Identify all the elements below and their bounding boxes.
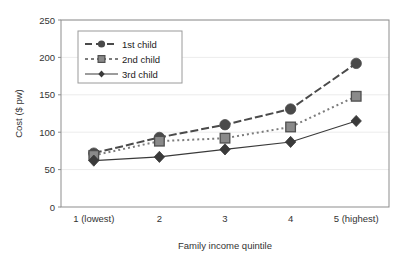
y-tick-label: 0 xyxy=(50,202,55,213)
data-point-circle xyxy=(351,58,361,68)
data-point-square xyxy=(286,122,296,132)
data-point-square xyxy=(351,91,361,101)
data-point-diamond xyxy=(154,151,164,162)
data-point-diamond xyxy=(285,136,295,147)
y-axis-title: Cost ($ pw) xyxy=(13,89,24,138)
data-point-square xyxy=(220,133,230,143)
legend: 1st child2nd child3rd child xyxy=(78,31,182,83)
legend-marker-circle xyxy=(98,40,105,47)
data-point-square xyxy=(155,136,165,146)
x-tick-label: 2 xyxy=(157,213,162,224)
x-axis-title: Family income quintile xyxy=(178,240,272,251)
y-axis: 050100150200250 xyxy=(39,15,61,213)
x-tick-label: 1 (lowest) xyxy=(73,213,114,224)
y-tick-label: 50 xyxy=(44,164,55,175)
y-tick-label: 200 xyxy=(39,52,55,63)
legend-label: 1st child xyxy=(122,39,157,50)
y-tick-label: 250 xyxy=(39,15,55,26)
data-point-diamond xyxy=(220,144,230,155)
x-tick-label: 5 (highest) xyxy=(334,213,379,224)
x-axis: 1 (lowest)2345 (highest) xyxy=(73,213,378,224)
y-tick-label: 100 xyxy=(39,127,55,138)
data-point-diamond xyxy=(351,115,361,126)
chart-container: 050100150200250Cost ($ pw)1 (lowest)2345… xyxy=(0,0,412,271)
data-point-circle xyxy=(220,120,230,130)
legend-marker-square xyxy=(98,56,105,63)
data-point-circle xyxy=(285,104,295,114)
legend-label: 3rd child xyxy=(122,69,158,80)
x-tick-label: 3 xyxy=(222,213,227,224)
y-tick-label: 150 xyxy=(39,89,55,100)
line-chart: 050100150200250Cost ($ pw)1 (lowest)2345… xyxy=(0,0,412,271)
x-tick-label: 4 xyxy=(288,213,293,224)
legend-label: 2nd child xyxy=(122,54,160,65)
